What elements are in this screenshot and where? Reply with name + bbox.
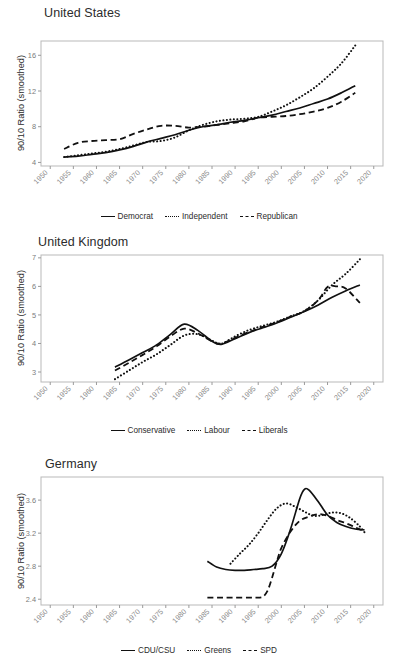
legend-entry-cdu-csu: CDU/CSU: [121, 646, 175, 655]
chart-legend-germany: CDU/CSUGreensSPD: [0, 646, 398, 655]
legend-label: Conservative: [128, 426, 176, 435]
x-axis-tick-label: 1960: [78, 607, 96, 625]
y-axis-tick-label: 4: [32, 158, 36, 167]
series-line-cdu-csu: [207, 488, 364, 570]
x-axis-tick-label: 1970: [124, 384, 142, 402]
y-axis-label: 90/10 Ratio (smoothed): [16, 270, 26, 366]
legend-key-dotted-icon: [165, 213, 179, 221]
series-line-spd: [207, 514, 364, 597]
legend-label: SPD: [260, 646, 277, 655]
x-axis-tick-label: 2015: [332, 384, 350, 402]
x-axis-tick-label: 1980: [170, 168, 188, 186]
series-line-republican: [64, 93, 355, 149]
x-axis-tick-label: 2010: [309, 607, 327, 625]
x-axis-tick-label: 1985: [193, 168, 211, 186]
plot-frame: [41, 477, 383, 605]
y-axis-tick-label: 6: [32, 282, 36, 291]
x-axis-tick-label: 1960: [78, 384, 96, 402]
x-axis-tick-label: 2005: [286, 607, 304, 625]
x-axis-tick-label: 1965: [101, 168, 119, 186]
chart-legend-united-states: DemocratIndependentRepublican: [0, 212, 398, 221]
x-axis-tick-label: 1950: [32, 168, 50, 186]
plot-area-united-states: 4812161950195519601965197019751980198519…: [0, 0, 398, 230]
chart-panel-united-kingdom: United Kingdom 3456719501955196019651970…: [0, 230, 398, 441]
x-axis-tick-label: 2020: [355, 607, 373, 625]
legend-key-dotted-icon: [187, 647, 201, 655]
x-axis-tick-label: 1985: [193, 384, 211, 402]
y-axis-tick-label: 3: [32, 368, 36, 377]
x-axis-tick-label: 2020: [355, 384, 373, 402]
x-axis-tick-label: 1955: [55, 168, 73, 186]
legend-entry-democrat: Democrat: [101, 212, 154, 221]
chart-panel-germany: Germany 2.42.83.23.619501955196019651970…: [0, 441, 398, 671]
legend-key-dashed-icon: [242, 427, 256, 435]
legend-entry-conservative: Conservative: [111, 426, 176, 435]
x-axis-tick-label: 1995: [240, 607, 258, 625]
x-axis-tick-label: 1990: [217, 607, 235, 625]
y-axis-tick-label: 5: [32, 311, 36, 320]
chart-panel-united-states: United States 48121619501955196019651970…: [0, 0, 398, 230]
x-axis-tick-label: 1960: [78, 168, 96, 186]
x-axis-tick-label: 2010: [309, 384, 327, 402]
series-line-greens: [230, 503, 364, 563]
x-axis-tick-label: 1970: [124, 607, 142, 625]
legend-entry-independent: Independent: [165, 212, 228, 221]
x-axis-tick-label: 2000: [263, 384, 281, 402]
y-axis-tick-label: 8: [32, 122, 36, 131]
legend-label: Labour: [204, 426, 230, 435]
legend-key-solid-icon: [111, 427, 125, 435]
x-axis-tick-label: 2015: [332, 168, 350, 186]
legend-key-dashed-icon: [243, 647, 257, 655]
x-axis-tick-label: 1965: [101, 607, 119, 625]
x-axis-tick-label: 1980: [170, 607, 188, 625]
x-axis-tick-label: 1990: [217, 384, 235, 402]
y-axis-tick-label: 3.2: [26, 529, 36, 538]
y-axis-tick-label: 2.4: [26, 595, 36, 604]
x-axis-tick-label: 1980: [170, 384, 188, 402]
y-axis-tick-label: 3.6: [26, 496, 36, 505]
chart-svg: 4812161950195519601965197019751980198519…: [0, 0, 398, 230]
x-axis-tick-label: 2000: [263, 607, 281, 625]
y-axis-tick-label: 4: [32, 339, 36, 348]
x-axis-tick-label: 2005: [286, 384, 304, 402]
legend-label: Republican: [257, 212, 298, 221]
x-axis-tick-label: 1995: [240, 168, 258, 186]
x-axis-tick-label: 2005: [286, 168, 304, 186]
legend-key-dotted-icon: [187, 427, 201, 435]
x-axis-tick-label: 1965: [101, 384, 119, 402]
x-axis-tick-label: 1995: [240, 384, 258, 402]
plot-area-united-kingdom: 3456719501955196019651970197519801985199…: [0, 230, 398, 441]
y-axis-label: 90/10 Ratio (smoothed): [16, 493, 26, 589]
legend-entry-labour: Labour: [187, 426, 230, 435]
legend-label: Liberals: [259, 426, 288, 435]
x-axis-tick-label: 1975: [147, 384, 165, 402]
series-line-democrat: [64, 86, 355, 157]
x-axis-tick-label: 1975: [147, 607, 165, 625]
legend-key-solid-icon: [121, 647, 135, 655]
legend-entry-liberals: Liberals: [242, 426, 288, 435]
x-axis-tick-label: 1990: [217, 168, 235, 186]
y-axis-tick-label: 12: [28, 87, 36, 96]
y-axis-tick-label: 16: [28, 51, 36, 60]
legend-label: Democrat: [118, 212, 154, 221]
legend-label: Greens: [204, 646, 231, 655]
chart-svg: 3456719501955196019651970197519801985199…: [0, 230, 398, 441]
x-axis-tick-label: 1985: [193, 607, 211, 625]
x-axis-tick-label: 1955: [55, 607, 73, 625]
legend-entry-greens: Greens: [187, 646, 231, 655]
x-axis-tick-label: 1955: [55, 384, 73, 402]
legend-entry-spd: SPD: [243, 646, 277, 655]
x-axis-tick-label: 2010: [309, 168, 327, 186]
plot-area-germany: 2.42.83.23.61950195519601965197019751980…: [0, 441, 398, 671]
series-line-independent: [64, 45, 355, 157]
legend-label: Independent: [182, 212, 228, 221]
x-axis-tick-label: 2000: [263, 168, 281, 186]
legend-key-dashed-icon: [240, 213, 254, 221]
legend-entry-republican: Republican: [240, 212, 298, 221]
x-axis-tick-label: 1950: [32, 607, 50, 625]
plot-frame: [41, 255, 383, 382]
chart-svg: 2.42.83.23.61950195519601965197019751980…: [0, 441, 398, 671]
y-axis-tick-label: 7: [32, 253, 36, 262]
y-axis-tick-label: 2.8: [26, 562, 36, 571]
series-line-conservative: [115, 285, 360, 367]
